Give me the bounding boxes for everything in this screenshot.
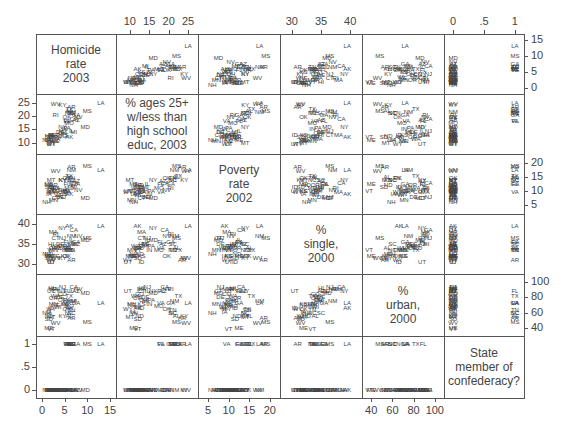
- variable-label: % ages 25+w/less thanhigh schooleduc, 20…: [116, 96, 198, 152]
- tick-label: 30: [8, 257, 30, 269]
- state-point: ME: [299, 325, 308, 331]
- state-point: OR: [232, 295, 241, 301]
- state-point: NH: [449, 199, 458, 205]
- state-point: VT: [365, 79, 373, 85]
- state-point: KY: [384, 102, 392, 108]
- state-point: RI: [422, 112, 428, 118]
- state-point: UT: [291, 387, 299, 393]
- tick-label: 10: [122, 15, 138, 27]
- tick-label: 60: [531, 306, 543, 318]
- state-point: WV: [448, 168, 458, 174]
- state-point: MA: [334, 189, 343, 195]
- tick-mark: [350, 30, 351, 34]
- state-point: WV: [181, 320, 191, 326]
- state-point: WV: [448, 101, 458, 107]
- state-point: UT: [418, 259, 426, 265]
- state-point: VT: [47, 247, 55, 253]
- state-point: WV: [296, 168, 306, 174]
- state-point: NH: [129, 199, 138, 205]
- state-point: ID: [396, 387, 402, 393]
- state-point: UT: [124, 288, 132, 294]
- state-point: NY: [241, 225, 249, 231]
- tick-mark: [32, 367, 36, 368]
- state-point: NJ: [59, 284, 66, 290]
- tick-mark: [249, 398, 250, 402]
- state-point: VA: [63, 341, 71, 347]
- state-point: UT: [449, 259, 457, 265]
- tick-mark: [32, 143, 36, 144]
- tick-mark: [42, 398, 43, 402]
- state-point: UT: [291, 141, 299, 147]
- state-point: OR: [408, 134, 417, 140]
- state-point: MA: [449, 229, 458, 235]
- state-point: OK: [162, 175, 171, 181]
- state-point: HI: [318, 285, 324, 291]
- tick-label: 0: [531, 81, 537, 93]
- state-point: RI: [168, 387, 174, 393]
- tick-label: 0: [445, 15, 461, 27]
- state-point: KS: [61, 387, 69, 393]
- state-point: IN: [309, 126, 315, 132]
- state-point: FL: [420, 341, 427, 347]
- state-point: ID: [138, 259, 144, 265]
- state-point: WV: [181, 75, 191, 81]
- state-point: HI: [318, 79, 324, 85]
- tick-mark: [270, 398, 271, 402]
- state-point: ME: [367, 181, 376, 187]
- state-point: RI: [168, 231, 174, 237]
- state-point: WV: [51, 168, 61, 174]
- state-point: CT: [418, 195, 426, 201]
- state-point: VA: [511, 67, 519, 73]
- state-point: NH: [208, 251, 217, 257]
- state-point: NM: [328, 167, 337, 173]
- state-point: KY: [180, 313, 188, 319]
- tick-mark: [32, 264, 36, 265]
- tick-mark: [149, 30, 150, 34]
- state-point: NY: [241, 124, 249, 130]
- state-point: NH: [42, 199, 51, 205]
- state-point: LA: [344, 167, 351, 173]
- state-point: MD: [148, 55, 157, 61]
- state-point: UT: [225, 259, 233, 265]
- state-point: NM: [328, 298, 337, 304]
- state-point: HI: [318, 132, 324, 138]
- state-point: RI: [333, 112, 339, 118]
- state-point: VT: [365, 247, 373, 253]
- state-point: NH: [449, 310, 458, 316]
- state-point: AR: [511, 164, 519, 170]
- state-point: HI: [423, 241, 429, 247]
- tick-mark: [524, 191, 528, 192]
- state-point: NY: [340, 177, 348, 183]
- state-point: KS: [61, 188, 69, 194]
- state-point: MS: [83, 341, 92, 347]
- state-point: MT: [382, 177, 391, 183]
- variable-label: Homiciderate2003: [36, 43, 116, 85]
- state-point: RI: [230, 112, 236, 118]
- state-point: LA: [344, 100, 351, 106]
- state-point: FL: [320, 118, 327, 124]
- state-point: UT: [124, 259, 132, 265]
- tick-label: 60: [382, 404, 402, 416]
- state-point: VT: [365, 134, 373, 140]
- state-point: NC: [388, 341, 397, 347]
- state-point: LA: [401, 100, 408, 106]
- tick-label: 25: [8, 96, 30, 108]
- state-point: LA: [344, 43, 351, 49]
- tick-mark: [524, 40, 528, 41]
- state-point: VT: [225, 79, 233, 85]
- state-point: MN: [212, 301, 221, 307]
- state-point: MA: [334, 286, 343, 292]
- tick-label: 100: [531, 275, 549, 287]
- tick-mark: [515, 30, 516, 34]
- state-point: MS: [375, 235, 384, 241]
- state-point: VT: [308, 134, 316, 140]
- state-point: IN: [146, 69, 152, 75]
- state-point: AR: [260, 341, 268, 347]
- state-point: WV: [253, 387, 263, 393]
- tick-mark: [32, 116, 36, 117]
- tick-mark: [292, 30, 293, 34]
- state-point: AR: [511, 104, 519, 110]
- tick-mark: [524, 282, 528, 283]
- tick-label: 35: [8, 237, 30, 249]
- state-point: KS: [61, 301, 69, 307]
